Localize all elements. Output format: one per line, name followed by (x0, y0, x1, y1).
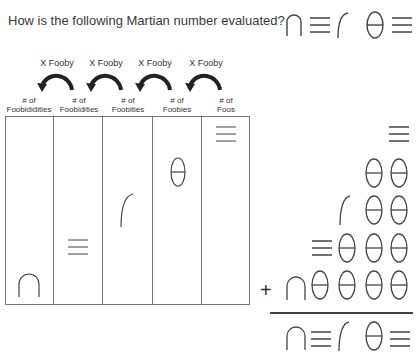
theta-icon (390, 233, 408, 263)
curved-arrow-icon (184, 70, 224, 92)
theta-icon (365, 233, 383, 263)
arch-icon (286, 276, 306, 300)
curved-arrow-icon (36, 70, 76, 92)
hook-icon (339, 195, 351, 225)
column-label-foobies: # ofFoobies (151, 96, 203, 114)
theta-icon (170, 157, 186, 187)
curved-arrow-icon (85, 70, 125, 92)
triple-bar-icon (311, 330, 331, 348)
column-divider (201, 116, 202, 305)
triple-bar-icon (216, 125, 236, 143)
plus-operator: + (260, 279, 272, 302)
theta-icon (365, 158, 383, 188)
hook-icon (120, 193, 134, 227)
column-divider (152, 116, 153, 305)
sum-rule-line (270, 312, 413, 314)
arch-icon (18, 273, 40, 297)
triple-bar-icon (392, 16, 412, 34)
arrow-label: X Fooby (130, 58, 180, 68)
theta-icon (390, 270, 408, 300)
theta-icon (311, 270, 329, 300)
triple-bar-icon (312, 239, 332, 257)
arch-icon (285, 12, 303, 36)
theta-icon (338, 233, 356, 263)
column-label-foobididities: # ofFoobididities (3, 96, 55, 114)
triple-bar-icon (390, 330, 410, 348)
theta-icon (365, 321, 383, 351)
theta-icon (338, 270, 356, 300)
arch-icon (286, 326, 306, 350)
triple-bar-icon (68, 238, 88, 256)
arrow-label: X Fooby (81, 58, 131, 68)
column-label-foos: # ofFoos (200, 96, 252, 114)
theta-icon (365, 270, 383, 300)
hook-icon (337, 12, 349, 38)
arrow-label: X Fooby (181, 58, 231, 68)
triple-bar-icon (389, 125, 409, 143)
column-label-foobities: # ofFoobities (102, 96, 154, 114)
theta-icon (390, 158, 408, 188)
triple-bar-icon (310, 16, 330, 34)
hook-icon (338, 321, 350, 351)
curved-arrow-icon (134, 70, 174, 92)
theta-icon (390, 195, 408, 225)
arrow-label: X Fooby (32, 58, 82, 68)
theta-icon (365, 195, 383, 225)
question-text: How is the following Martian number eval… (8, 13, 285, 28)
theta-icon (366, 11, 384, 39)
column-label-foobidities: # ofFoobidities (53, 96, 105, 114)
column-divider (102, 116, 103, 305)
column-divider (53, 116, 54, 305)
